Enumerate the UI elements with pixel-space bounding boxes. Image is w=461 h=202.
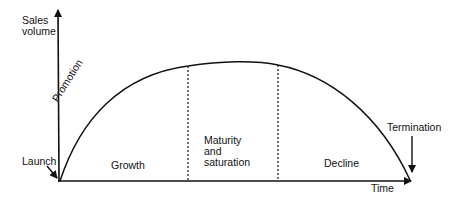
x-axis-label: Time (371, 183, 394, 194)
phase-maturity-label: Maturity and saturation (204, 135, 250, 168)
phase-growth-label: Growth (111, 160, 145, 171)
launch-label: Launch (22, 156, 56, 167)
product-life-cycle-diagram: Sales volume Promotion Launch Growth Mat… (0, 0, 461, 202)
diagram-canvas (0, 0, 461, 202)
maturity-line-3: saturation (204, 157, 250, 168)
launch-arrow (47, 166, 57, 178)
phase-decline-label: Decline (324, 158, 359, 169)
y-axis-label: Sales volume (22, 15, 56, 37)
termination-label: Termination (387, 122, 441, 133)
y-axis-label-line-2: volume (22, 26, 56, 37)
